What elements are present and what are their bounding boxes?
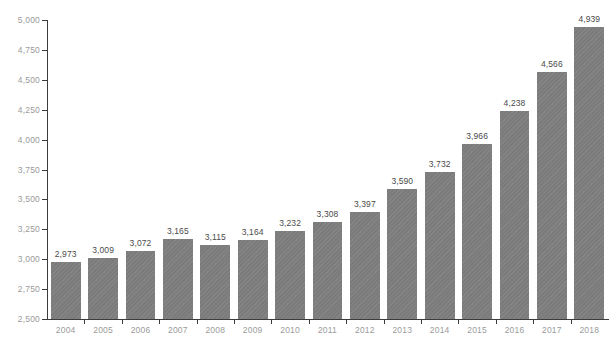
x-axis-category-label: 2008: [197, 326, 234, 335]
y-axis-tick-label: 4,250: [2, 106, 40, 115]
y-axis-tick-label: 3,750: [2, 166, 40, 175]
y-axis-tick: [42, 319, 48, 320]
x-axis-tick: [533, 320, 534, 324]
x-axis-tick: [197, 320, 198, 324]
y-axis-tick-label: 5,000: [2, 16, 40, 25]
x-axis-category-label: 2007: [159, 326, 196, 335]
bar[interactable]: [387, 189, 417, 319]
y-axis-tick-label-wrap: 4,250: [0, 106, 40, 116]
bar[interactable]: [88, 258, 118, 319]
x-axis-category-label: 2005: [84, 326, 121, 335]
x-axis-category-label: 2012: [346, 326, 383, 335]
bar-value-label: 4,566: [529, 60, 574, 69]
x-axis-category-label: 2017: [533, 326, 570, 335]
x-axis-tick: [271, 320, 272, 324]
x-axis-tick: [122, 320, 123, 324]
bar-value-label: 3,072: [118, 239, 163, 248]
y-axis-tick-label: 4,000: [2, 136, 40, 145]
x-axis-category-label: 2009: [234, 326, 271, 335]
bar[interactable]: [462, 144, 492, 319]
x-axis-tick: [458, 320, 459, 324]
x-axis-tick: [496, 320, 497, 324]
y-axis-tick-label-wrap: 4,000: [0, 136, 40, 146]
y-axis-tick-label-wrap: 3,250: [0, 225, 40, 235]
x-axis-category-label: 2015: [458, 326, 495, 335]
bar[interactable]: [313, 222, 343, 319]
x-axis-tick: [346, 320, 347, 324]
bar-value-label: 3,164: [230, 228, 275, 237]
bar-value-label: 4,939: [567, 15, 612, 24]
y-axis-tick-label: 4,500: [2, 76, 40, 85]
bar[interactable]: [200, 245, 230, 319]
bar-chart: 2,5002,7503,0003,2503,5003,7504,0004,250…: [0, 0, 613, 346]
y-axis-tick-label: 3,250: [2, 225, 40, 234]
bar[interactable]: [500, 111, 530, 319]
x-axis-tick: [234, 320, 235, 324]
bar[interactable]: [275, 231, 305, 319]
x-axis-category-label: 2016: [496, 326, 533, 335]
bar-value-label: 3,232: [267, 219, 312, 228]
y-axis-tick-label-wrap: 5,000: [0, 16, 40, 26]
x-axis-tick: [159, 320, 160, 324]
x-axis-category-label: 2006: [122, 326, 159, 335]
bar-value-label: 3,308: [305, 210, 350, 219]
bar-value-label: 3,590: [380, 177, 425, 186]
y-axis-tick-label-wrap: 2,750: [0, 285, 40, 295]
bar[interactable]: [537, 72, 567, 319]
bar-value-label: 3,966: [454, 132, 499, 141]
y-axis-tick-label: 2,500: [2, 315, 40, 324]
y-axis-tick-label-wrap: 4,750: [0, 46, 40, 56]
bar[interactable]: [574, 27, 604, 319]
bar[interactable]: [238, 240, 268, 319]
y-axis-tick-label-wrap: 4,500: [0, 76, 40, 86]
y-axis-tick-label: 3,000: [2, 255, 40, 264]
x-axis-tick: [571, 320, 572, 324]
x-axis-tick: [84, 320, 85, 324]
x-axis-category-label: 2004: [47, 326, 84, 335]
y-axis-tick-label: 4,750: [2, 46, 40, 55]
bar-value-label: 4,238: [492, 99, 537, 108]
x-axis-category-label: 2014: [421, 326, 458, 335]
bar[interactable]: [350, 212, 380, 319]
y-axis-tick-label: 2,750: [2, 285, 40, 294]
y-axis-tick-label: 3,500: [2, 195, 40, 204]
y-axis-tick-label-wrap: 3,000: [0, 255, 40, 265]
bar-value-label: 3,732: [417, 160, 462, 169]
x-axis-tick: [309, 320, 310, 324]
x-axis-category-label: 2018: [571, 326, 608, 335]
bar-value-label: 3,009: [80, 246, 125, 255]
bar[interactable]: [163, 239, 193, 319]
y-axis-tick-label-wrap: 2,500: [0, 315, 40, 325]
x-axis-tick: [421, 320, 422, 324]
x-axis-category-label: 2011: [309, 326, 346, 335]
x-axis-category-label: 2013: [384, 326, 421, 335]
x-axis-category-label: 2010: [271, 326, 308, 335]
y-axis-tick-label-wrap: 3,750: [0, 166, 40, 176]
y-axis-tick-label-wrap: 3,500: [0, 195, 40, 205]
x-axis-tick: [384, 320, 385, 324]
plot-area: 2,9733,0093,0723,1653,1153,1643,2323,308…: [47, 20, 607, 319]
bar[interactable]: [126, 251, 156, 319]
bar[interactable]: [425, 172, 455, 319]
bar-value-label: 3,397: [342, 200, 387, 209]
x-axis-line: [47, 319, 609, 320]
bar[interactable]: [51, 262, 81, 319]
